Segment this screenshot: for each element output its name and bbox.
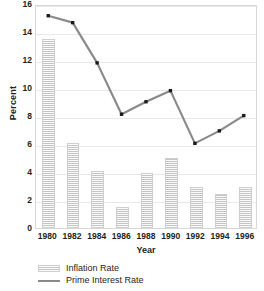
legend-label-inflation-rate: Inflation Rate xyxy=(66,263,119,273)
chart-legend: Inflation Rate Prime Interest Rate xyxy=(38,262,238,286)
x-axis-tick-label: 1982 xyxy=(63,231,82,241)
y-axis-tick-label: 14 xyxy=(23,28,32,37)
x-axis-tick-label: 1992 xyxy=(186,231,205,241)
data-point-marker xyxy=(169,89,172,92)
y-axis-tick-label: 0 xyxy=(27,224,32,233)
line-swatch-icon xyxy=(38,277,60,284)
x-axis-tick-labels: 198019821984198619881990199219941996 xyxy=(35,231,257,243)
legend-label-prime-interest-rate: Prime Interest Rate xyxy=(66,275,144,285)
x-axis-tick-label: 1990 xyxy=(161,231,180,241)
data-point-marker xyxy=(218,129,221,132)
y-axis-tick-label: 16 xyxy=(23,0,32,9)
data-point-marker xyxy=(144,100,147,103)
x-axis-tick-label: 1980 xyxy=(38,231,57,241)
y-axis-tick-label: 4 xyxy=(27,168,32,177)
data-point-marker xyxy=(47,14,50,17)
y-axis-tick-labels: 0246810121416 xyxy=(16,0,32,240)
prime-interest-rate-line-svg xyxy=(36,6,256,228)
data-point-marker xyxy=(193,142,196,145)
x-axis-tick-label: 1986 xyxy=(112,231,131,241)
y-axis-tick-label: 10 xyxy=(23,84,32,93)
y-axis-tick-label: 6 xyxy=(27,140,32,149)
plot-area xyxy=(35,5,257,229)
y-axis-tick-label: 12 xyxy=(23,56,32,65)
x-axis-tick-label: 1988 xyxy=(137,231,156,241)
x-axis-tick-label: 1996 xyxy=(235,231,254,241)
x-axis-title: Year xyxy=(35,245,257,255)
y-axis-tick-label: 2 xyxy=(27,196,32,205)
data-point-marker xyxy=(95,61,98,64)
line-series-prime-interest-rate xyxy=(36,6,256,228)
legend-item-inflation-rate: Inflation Rate xyxy=(38,262,238,274)
bar-swatch-icon xyxy=(38,265,60,272)
legend-item-prime-interest-rate: Prime Interest Rate xyxy=(38,274,238,286)
chart-container: Percent 0246810121416 198019821984198619… xyxy=(0,0,264,291)
x-axis-tick-label: 1994 xyxy=(211,231,230,241)
x-axis-tick-label: 1984 xyxy=(87,231,106,241)
y-axis-tick-label: 8 xyxy=(27,112,32,121)
data-point-marker xyxy=(71,21,74,24)
data-point-marker xyxy=(242,114,245,117)
data-point-marker xyxy=(120,113,123,116)
